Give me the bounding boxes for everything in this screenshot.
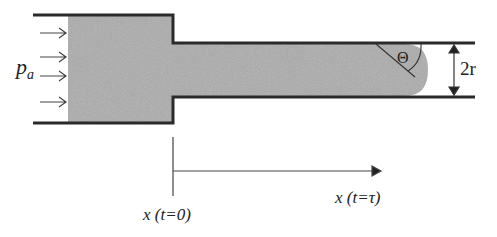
radius-dimension-arrow — [449, 45, 459, 95]
pressure-arrows — [40, 28, 66, 107]
angle-label: Θ — [397, 49, 409, 67]
x-end-label: x (t=τ) — [335, 188, 380, 208]
pressure-label: pa — [16, 54, 34, 83]
capillary-diagram — [0, 0, 497, 237]
fluid-region — [68, 16, 428, 122]
x-start-label: x (t=0) — [143, 205, 191, 225]
radius-label: 2r — [460, 58, 476, 80]
